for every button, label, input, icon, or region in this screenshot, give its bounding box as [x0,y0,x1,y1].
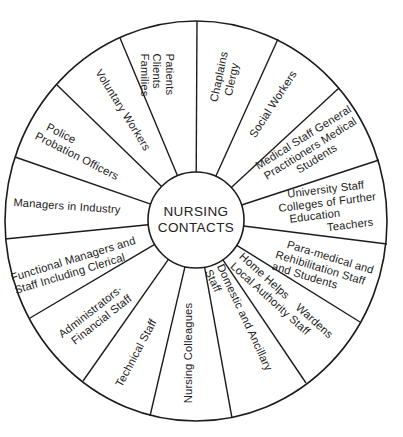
segment-divider [196,21,197,172]
segment-label-university: University StaffColleges of FurtherEduca… [328,196,403,258]
segment-label-nursing-colleagues: Nursing Colleagues [188,253,201,353]
